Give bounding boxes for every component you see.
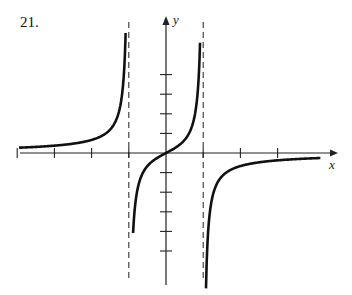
function-graph: x y bbox=[0, 0, 352, 295]
curve-branch-3 bbox=[206, 158, 320, 288]
axes bbox=[20, 16, 338, 285]
x-axis-arrow-icon bbox=[330, 150, 338, 157]
curve-branches bbox=[19, 33, 320, 288]
curve-branch-1 bbox=[19, 33, 126, 148]
y-axis-label: y bbox=[171, 12, 179, 27]
axis-ticks bbox=[17, 75, 277, 251]
x-axis-label: x bbox=[328, 157, 335, 172]
y-axis-arrow-icon bbox=[163, 16, 170, 25]
